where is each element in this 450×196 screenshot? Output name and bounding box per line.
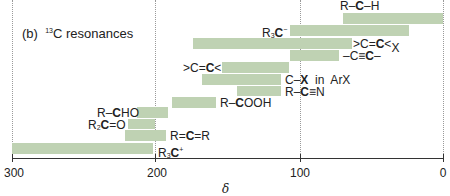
x-axis-label: δ	[222, 182, 229, 196]
chart-title: (b) 13C resonances	[22, 26, 133, 41]
tick-200	[155, 154, 156, 162]
tick-100	[300, 154, 301, 162]
bar-allene	[125, 130, 166, 141]
gridline-0	[443, 0, 444, 158]
tick-label-100: 100	[290, 166, 310, 180]
label-ketone: R2C=O	[88, 119, 126, 134]
label-alkene: >C=C<	[183, 62, 221, 74]
bar-aldehyde	[137, 107, 168, 118]
bar-nitrile	[237, 86, 281, 96]
tick-0	[443, 154, 444, 162]
c13-resonance-chart: (b) 13C resonances R–C–H R3C− >C=C<X –C≡…	[0, 0, 450, 196]
label-nitrile: R–C≡N	[285, 86, 325, 98]
tick-label-200: 200	[147, 166, 167, 180]
label-alkyne: –C≡C–	[343, 50, 381, 62]
label-acid: R–COOH	[220, 97, 271, 109]
bar-alkene-x	[193, 38, 352, 49]
tick-300	[12, 154, 13, 162]
bar-alkene	[222, 62, 289, 73]
tick-label-0: 0	[440, 166, 447, 180]
gridline-300	[12, 0, 13, 158]
bar-acid	[172, 97, 216, 108]
label-r-c-h: R–C–H	[340, 0, 379, 12]
x-axis	[12, 158, 444, 159]
bar-alkyne	[290, 50, 339, 61]
label-allene: R=C=R	[170, 130, 210, 142]
bar-ketone	[128, 119, 155, 129]
bar-c-x-arx	[202, 74, 281, 85]
bar-r3c-anion	[290, 25, 409, 36]
bar-r-c-h	[343, 13, 443, 24]
tick-label-300: 300	[4, 166, 24, 180]
bar-r3c-cation	[12, 143, 153, 154]
label-r3c-cation: R3C+	[158, 144, 183, 162]
